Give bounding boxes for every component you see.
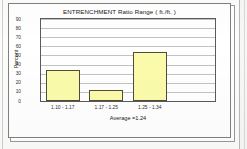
y-tick-label: 60	[7, 44, 21, 49]
chart-frame: ENTRENCHMENT Ratio Range ( ft./ft. ) Per…	[8, 3, 231, 138]
x-axis-title: Average =1.24	[40, 115, 216, 121]
y-tick-label: 30	[7, 71, 21, 76]
page-left-edge	[2, 0, 3, 149]
y-tick-label: 20	[7, 80, 21, 85]
chart-title: ENTRENCHMENT Ratio Range ( ft./ft. )	[9, 8, 230, 15]
y-tick-label: 80	[7, 26, 21, 31]
adjacent-page-edge-inner	[244, 0, 245, 149]
bars-group	[41, 19, 215, 101]
x-tick-label: 1.10 - 1.17	[41, 105, 85, 110]
bar-slot	[85, 19, 129, 101]
y-tick-label: 10	[7, 89, 21, 94]
bar	[89, 90, 123, 101]
bar	[133, 52, 167, 101]
y-tick-label: 90	[7, 17, 21, 22]
bar-slot	[128, 19, 172, 101]
x-tick-label: 1.17 - 1.25	[85, 105, 129, 110]
y-tick-label: 50	[7, 53, 21, 58]
x-tick-label: 1.25 - 1.34	[128, 105, 172, 110]
adjacent-page-edge	[239, 0, 240, 149]
y-tick-label: 70	[7, 35, 21, 40]
y-tick-label: 0	[7, 99, 21, 104]
bar-chart: ENTRENCHMENT Ratio Range ( ft./ft. ) Per…	[9, 4, 230, 137]
bar	[46, 70, 80, 101]
bar-slot	[41, 19, 85, 101]
scanned-page: ENTRENCHMENT Ratio Range ( ft./ft. ) Per…	[0, 0, 247, 149]
y-tick-label: 40	[7, 62, 21, 67]
